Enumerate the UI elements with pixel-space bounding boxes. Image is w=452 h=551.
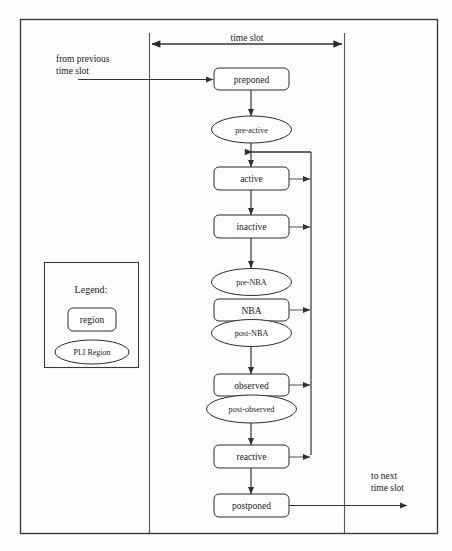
- node-preponed-label: preponed: [234, 75, 270, 85]
- node-postponed-label: postponed: [232, 501, 271, 511]
- to-next-label-line1: to next: [371, 471, 397, 481]
- node-reactive-label: reactive: [236, 452, 266, 462]
- node-nba-label: NBA: [241, 306, 261, 316]
- time-slot-dimension-label: time slot: [231, 33, 264, 43]
- node-pre-nba-label: pre-NBA: [236, 278, 267, 287]
- legend-title: Legend:: [75, 284, 108, 295]
- node-observed-label: observed: [234, 381, 269, 391]
- node-pre-active-label: pre-active: [235, 126, 268, 135]
- node-inactive-label: inactive: [236, 222, 266, 232]
- from-previous-label-line2: time slot: [56, 66, 89, 76]
- diagram-canvas: time slot from previous time slot to nex…: [0, 0, 452, 551]
- legend-region-label: region: [80, 315, 105, 325]
- node-post-nba-label: post-NBA: [235, 329, 269, 338]
- node-post-observed-label: post-observed: [229, 405, 275, 414]
- node-active-label: active: [240, 174, 263, 184]
- to-next-label-line2: time slot: [371, 483, 404, 493]
- legend-pli-label: PLI Region: [73, 348, 110, 357]
- from-previous-label-line1: from previous: [56, 54, 110, 64]
